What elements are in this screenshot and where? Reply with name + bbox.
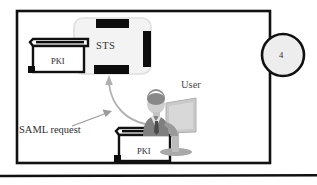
bottom-rule [0,175,317,176]
user-to-sts-arrow [105,75,145,124]
saml-request-label: SAML request [19,125,81,136]
sts-bottom-bar [94,65,129,74]
pki-bottom-foot [114,155,121,162]
step-number-label: 4 [279,51,283,60]
sts-top-bar [96,19,129,28]
user-to-sts-path [109,84,145,124]
user-label: User [181,80,201,91]
pki-top-slot [36,41,84,43]
user-hair-cap [147,93,165,105]
pki-top-foot [28,66,35,73]
diagram-canvas: STS User SAML request 4 PKI PKI [0,0,317,185]
sts-right-bar [143,31,151,67]
pki-top-label: PKI [51,56,65,66]
diagram-svg [0,0,317,185]
saml-request-arrowhead [103,110,113,117]
sts-label: STS [96,41,115,52]
user-to-sts-arrowhead [105,75,113,85]
pki-bottom-label: PKI [137,146,151,156]
